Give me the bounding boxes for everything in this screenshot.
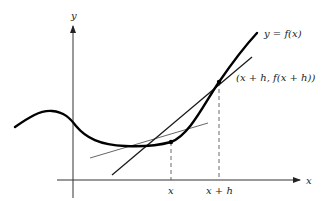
point-label: (x + h, f(x + h)) — [236, 72, 315, 83]
point-q — [217, 80, 221, 84]
point-p — [169, 140, 173, 144]
tick-x-label: x — [168, 185, 174, 196]
tick-x-plus-h-label: x + h — [206, 185, 233, 196]
derivative-diagram: y x y = f(x) (x + h, f(x + h)) x x + h — [0, 0, 330, 201]
tangent-line — [90, 123, 208, 158]
secant-line — [112, 57, 252, 175]
function-curve — [15, 33, 257, 146]
curve-label: y = f(x) — [263, 28, 302, 39]
x-axis-label: x — [306, 175, 312, 186]
y-axis-label: y — [70, 10, 77, 21]
